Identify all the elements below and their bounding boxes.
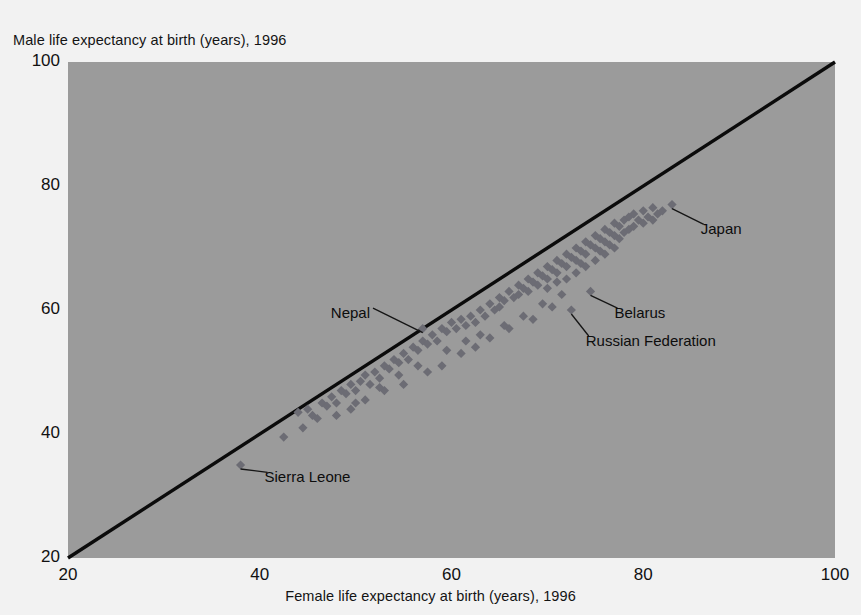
x-tick-40: 40 [230,565,290,585]
y-tick-100: 100 [4,51,60,71]
y-tick-40: 40 [4,423,60,443]
annotation-nepal: Nepal [0,304,370,321]
annotation-russian-federation: Russian Federation [586,332,716,349]
annotation-belarus: Belarus [614,304,665,321]
y-tick-80: 80 [4,175,60,195]
annotation-sierra-leone: Sierra Leone [265,468,351,485]
scatter-chart: Male life expectancy at birth (years), 1… [0,0,861,615]
x-tick-20: 20 [38,565,98,585]
y-tick-20: 20 [4,547,60,567]
x-tick-80: 80 [613,565,673,585]
x-tick-60: 60 [422,565,482,585]
annotation-japan: Japan [701,220,742,237]
x-tick-100: 100 [805,565,861,585]
x-axis-title: Female life expectancy at birth (years),… [0,588,861,604]
